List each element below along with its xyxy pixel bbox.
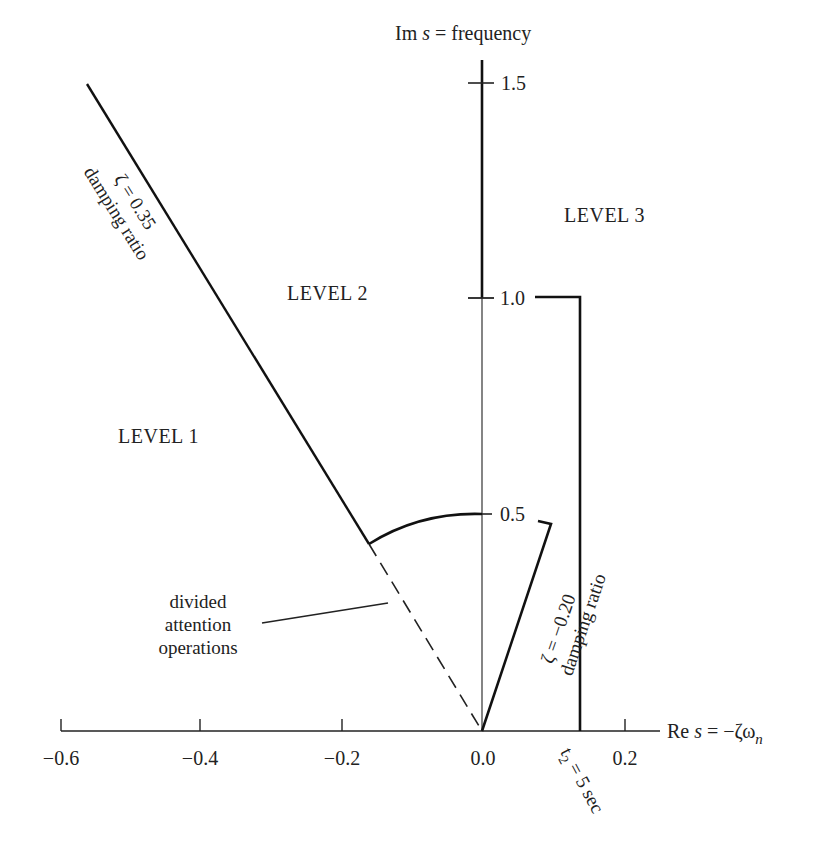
zeta-035-line <box>87 84 369 544</box>
x-tick-label: −0.4 <box>182 747 218 769</box>
y-tick-label: 1.0 <box>500 287 525 309</box>
y-tick-label: 1.5 <box>501 72 526 94</box>
x-axis-title: Re s = −ζωn <box>667 720 763 747</box>
region-level-2: LEVEL 2 <box>287 282 368 304</box>
y-axis-title: Im s = frequency <box>395 22 531 45</box>
zeta-neg020-line <box>482 521 551 731</box>
x-axis: −0.6 −0.4 −0.2 0.0 0.2 Re s = −ζωn <box>43 719 763 769</box>
svg-text:divided: divided <box>170 591 227 612</box>
region-level-3: LEVEL 3 <box>564 204 645 226</box>
x-tick-label: −0.2 <box>324 747 360 769</box>
svg-text:operations: operations <box>158 637 237 658</box>
zeta-035-label: ζ = 0.35 damping ratio <box>80 151 173 264</box>
svg-text:attention: attention <box>165 614 232 635</box>
zeta-neg020-label: ζ = −0.20 damping ratio <box>535 564 610 678</box>
divided-attention-label: divided attention operations <box>158 591 237 658</box>
y-tick-label: 0.5 <box>500 503 525 525</box>
region-level-1: LEVEL 1 <box>118 425 199 447</box>
frequency-arc <box>369 514 482 544</box>
divided-attention-leader <box>262 603 388 623</box>
t-half-label: t2 = 5 sec <box>553 744 608 818</box>
root-plane-chart: −0.6 −0.4 −0.2 0.0 0.2 Re s = −ζωn 1.5 1… <box>0 0 815 859</box>
x-tick-label: 0.0 <box>471 747 496 769</box>
x-tick-label: 0.2 <box>613 747 638 769</box>
y-axis: 1.5 1.0 0.5 Im s = frequency <box>395 22 531 731</box>
divided-attention-dashed-line <box>369 544 482 731</box>
svg-text:t2 = 5 sec: t2 = 5 sec <box>553 744 608 818</box>
x-tick-label: −0.6 <box>43 747 79 769</box>
